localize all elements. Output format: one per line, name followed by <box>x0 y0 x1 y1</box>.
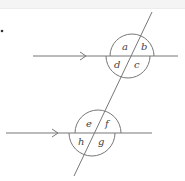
angle-label-d: d <box>114 59 120 70</box>
bullet-dot <box>1 30 4 33</box>
angle-label-h: h <box>78 136 84 147</box>
angle-label-c: c <box>134 59 140 70</box>
angle-label-a: a <box>122 41 128 52</box>
transversal-line <box>74 12 152 176</box>
angle-label-f: f <box>104 118 111 129</box>
angle-label-e: e <box>86 118 92 129</box>
angle-label-b: b <box>141 41 147 52</box>
angle-label-g: g <box>98 136 104 147</box>
parallel-lines-diagram: a b c d e f g h <box>0 0 185 181</box>
